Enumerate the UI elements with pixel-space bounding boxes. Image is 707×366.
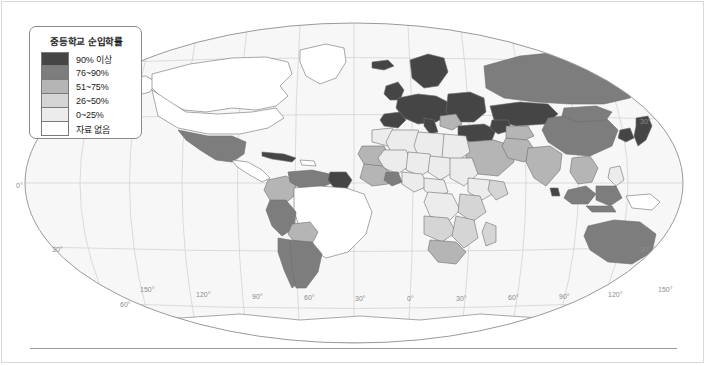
legend-item[interactable]: 76~90% — [41, 66, 136, 80]
lon-label-0: 0° — [407, 295, 414, 302]
world-map-figure: 30° 0° 30° 60° 30° 30° 150° 120° 90° 60°… — [0, 0, 707, 366]
legend-swatch-icon — [41, 52, 69, 66]
legend-swatch-icon — [41, 94, 69, 108]
legend-swatch-icon — [41, 80, 69, 94]
legend-item-label: 51~75% — [76, 82, 109, 92]
legend-item-label: 0~25% — [76, 110, 104, 120]
legend-item[interactable]: 90% 이상 — [41, 52, 136, 66]
lon-label-90w: 90° — [252, 293, 263, 300]
region-sri-lanka — [550, 188, 560, 196]
lon-label-120e: 120° — [608, 291, 623, 298]
region-antarctica — [60, 312, 650, 343]
lon-label-150w: 150° — [140, 286, 155, 293]
lon-label-30w: 30° — [355, 295, 366, 302]
lon-label-150e: 150° — [658, 286, 673, 293]
lon-label-60e: 60° — [508, 294, 519, 301]
region-russia — [484, 52, 640, 104]
lon-label-60w: 60° — [304, 294, 315, 301]
lat-label-30s-left: 30° — [52, 246, 63, 253]
legend-item-label: 90% 이상 — [76, 53, 112, 66]
lon-label-90e: 90° — [559, 293, 570, 300]
legend-item-label: 26~50% — [76, 96, 109, 106]
legend-item[interactable]: 51~75% — [41, 80, 136, 94]
legend-item[interactable]: 26~50% — [41, 94, 136, 108]
legend-swatch-icon — [41, 66, 69, 80]
region-hispaniola — [300, 160, 316, 166]
legend-item-label: 자료 없음 — [76, 123, 110, 136]
bottom-divider — [30, 348, 677, 349]
legend-items: 90% 이상 76~90% 51~75% 26~50% 0~25% 자료 없음 — [41, 52, 136, 136]
legend-item[interactable]: 자료 없음 — [41, 122, 136, 136]
legend-item[interactable]: 0~25% — [41, 108, 136, 122]
lon-label-120w: 120° — [196, 291, 211, 298]
lon-label-30e: 30° — [456, 295, 467, 302]
legend-item-label: 76~90% — [76, 68, 109, 78]
lat-label-60s-left: 60° — [120, 301, 131, 308]
region-new-zealand — [664, 256, 678, 272]
legend-title: 중등학교 순입학률 — [30, 34, 143, 48]
legend-swatch-icon — [41, 122, 69, 136]
map-legend: 중등학교 순입학률 90% 이상 76~90% 51~75% 26~50% 0~… — [29, 26, 142, 139]
lat-label-30n-right: 30° — [640, 118, 651, 125]
lat-label-0-left: 0° — [16, 182, 23, 189]
legend-swatch-icon — [41, 108, 69, 122]
lat-label-30s-right: 30° — [640, 246, 651, 253]
